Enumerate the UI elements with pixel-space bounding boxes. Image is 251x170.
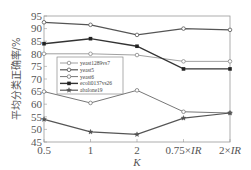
y-tick-label: 70: [31, 73, 43, 85]
x-tick-label: 2×IR: [219, 144, 241, 156]
y-tick-label: 60: [31, 98, 43, 110]
series-abalone19: [42, 110, 233, 136]
series-yeast5: [42, 21, 232, 37]
y-tick-label: 95: [31, 10, 43, 22]
y-tick-label: 75: [31, 60, 43, 72]
x-tick-label: 0.5: [37, 144, 51, 156]
svg-text:yeast6: yeast6: [80, 74, 94, 80]
y-tick-label: 65: [31, 85, 43, 97]
svg-text:ecoli0137vs26: ecoli0137vs26: [80, 80, 112, 86]
x-axis-label: K: [132, 156, 141, 168]
line-chart: 4550556065707580859095 0.5120.75×IR2×IR …: [0, 0, 251, 170]
svg-text:yeast5: yeast5: [80, 67, 94, 73]
x-axis-ticks: 0.5120.75×IR2×IR: [37, 139, 241, 156]
x-tick-label: 2: [134, 144, 140, 156]
x-tick-label: 1: [88, 144, 94, 156]
y-tick-label: 85: [31, 35, 43, 47]
y-tick-label: 90: [31, 22, 43, 34]
x-tick-label: 0.75×IR: [166, 144, 202, 156]
y-tick-label: 50: [31, 123, 43, 135]
y-axis-ticks: 4550556065707580859095: [31, 10, 47, 148]
y-axis-label: 平均分类正确率/%: [10, 38, 22, 121]
svg-text:abalone19: abalone19: [80, 87, 103, 93]
svg-text:yeast1289vs7: yeast1289vs7: [80, 60, 110, 66]
legend: yeast1289vs7yeast5yeast6ecoli0137vs26aba…: [57, 57, 123, 94]
y-tick-label: 80: [31, 48, 43, 60]
y-tick-label: 55: [31, 111, 43, 123]
